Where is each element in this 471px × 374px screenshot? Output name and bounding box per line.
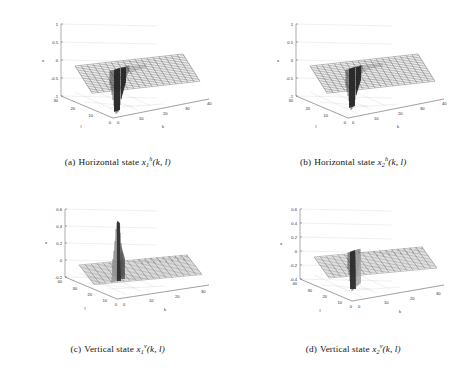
surface-plot-a: 1 0.5 0 -0.5 -1 x 30 20 10 0 l 0 10 2: [13, 6, 223, 156]
svg-text:40: 40: [57, 279, 62, 284]
caption-d-text: Vertical state: [320, 344, 370, 354]
svg-text:x: x: [42, 58, 45, 63]
caption-c-text: Vertical state: [84, 344, 134, 354]
surface-plot-d: 0.6 0.4 0.2 0 -0.2 -0.4 x 40 30 20 10 0 …: [248, 193, 458, 343]
svg-text:20: 20: [306, 106, 311, 111]
caption-b-label: (b): [300, 157, 311, 167]
svg-text:0.4: 0.4: [292, 221, 298, 226]
impulse-d-fill: [350, 250, 356, 289]
svg-text:1: 1: [55, 22, 58, 27]
caption-c: (c)Vertical state x1v(k, l): [70, 344, 165, 354]
surface-plot-c-svg: 0.6 0.4 0.2 0 -0.2 x 40 30 20 10 0 l 0 1…: [13, 193, 223, 343]
svg-text:10: 10: [374, 116, 379, 121]
panel-b: 1 0.5 0 -0.5 -1 x 30 20 10 0 l 0 10 20 3…: [236, 0, 471, 187]
svg-text:l: l: [320, 308, 321, 313]
svg-text:20: 20: [163, 111, 168, 116]
svg-text:0: 0: [291, 58, 294, 63]
caption-c-label: (c): [70, 344, 81, 354]
svg-text:0: 0: [123, 302, 126, 307]
svg-text:x: x: [280, 241, 283, 246]
svg-text:10: 10: [139, 116, 144, 121]
svg-text:x: x: [45, 240, 48, 245]
caption-d: (d)Vertical state x2v(k, l): [306, 344, 401, 354]
panel-d: 0.6 0.4 0.2 0 -0.2 -0.4 x 40 30 20 10 0 …: [236, 187, 471, 374]
svg-text:0: 0: [295, 249, 298, 254]
svg-text:0: 0: [358, 304, 361, 309]
caption-a: (a)Horizontal state x1h(k, l): [65, 157, 171, 167]
svg-text:30: 30: [308, 288, 313, 293]
mesh-surface-d: [314, 247, 437, 291]
caption-a-var: x1h(k, l): [142, 157, 171, 167]
svg-text:30: 30: [53, 98, 58, 103]
svg-text:0.5: 0.5: [288, 40, 294, 45]
svg-text:k: k: [399, 309, 402, 314]
svg-text:40: 40: [442, 101, 447, 106]
svg-text:30: 30: [72, 286, 77, 291]
svg-text:10: 10: [88, 113, 93, 118]
svg-text:20: 20: [87, 292, 92, 297]
svg-text:0.6: 0.6: [292, 207, 298, 212]
svg-text:10: 10: [149, 298, 154, 303]
svg-text:40: 40: [293, 281, 298, 286]
caption-d-label: (d): [306, 344, 317, 354]
svg-text:k: k: [164, 307, 167, 312]
axes-b: 1 0.5 0 -0.5 -1 x 30 20 10 0 l 0 10 20 3…: [277, 22, 447, 130]
axes-c: 0.6 0.4 0.2 0 -0.2 x 40 30 20 10 0 l 0 1…: [45, 207, 209, 313]
panel-c: 0.6 0.4 0.2 0 -0.2 x 40 30 20 10 0 l 0 1…: [0, 187, 236, 374]
svg-text:0: 0: [108, 120, 111, 125]
svg-text:0.2: 0.2: [292, 235, 298, 240]
svg-text:0: 0: [114, 302, 117, 307]
caption-b-var: x2h(k, l): [377, 157, 406, 167]
surface-plot-a-svg: 1 0.5 0 -0.5 -1 x 30 20 10 0 l 0 10 2: [13, 6, 223, 156]
caption-b: (b)Horizontal state x2h(k, l): [300, 157, 406, 167]
surface-plot-c: 0.6 0.4 0.2 0 -0.2 x 40 30 20 10 0 l 0 1…: [13, 193, 223, 343]
svg-text:0.4: 0.4: [56, 224, 62, 229]
caption-d-var: x2v(k, l): [372, 344, 401, 354]
svg-text:30: 30: [289, 98, 294, 103]
svg-text:30: 30: [201, 289, 206, 294]
svg-text:20: 20: [323, 294, 328, 299]
svg-text:20: 20: [175, 294, 180, 299]
svg-text:k: k: [162, 124, 165, 129]
svg-text:0: 0: [352, 120, 355, 125]
svg-text:10: 10: [324, 113, 329, 118]
panel-a: 1 0.5 0 -0.5 -1 x 30 20 10 0 l 0 10 2: [0, 0, 236, 187]
svg-text:-0.5: -0.5: [286, 76, 294, 81]
svg-text:k: k: [397, 124, 400, 129]
svg-text:0.2: 0.2: [56, 241, 62, 246]
svg-text:10: 10: [102, 298, 107, 303]
svg-text:l: l: [84, 306, 85, 311]
surface-plot-b: 1 0.5 0 -0.5 -1 x 30 20 10 0 l 0 10 20 3…: [248, 6, 458, 156]
surface-plot-d-svg: 0.6 0.4 0.2 0 -0.2 -0.4 x 40 30 20 10 0 …: [248, 193, 458, 343]
svg-text:0: 0: [344, 120, 347, 125]
svg-text:-0.5: -0.5: [51, 76, 59, 81]
svg-text:x: x: [277, 58, 280, 63]
axes-a: 1 0.5 0 -0.5 -1 x 30 20 10 0 l 0 10 2: [42, 22, 212, 130]
caption-c-var: x1v(k, l): [136, 344, 165, 354]
svg-text:l: l: [80, 124, 81, 129]
svg-text:1: 1: [291, 22, 294, 27]
svg-text:10: 10: [338, 300, 343, 305]
svg-text:0: 0: [59, 258, 62, 263]
svg-text:20: 20: [398, 111, 403, 116]
svg-text:0.6: 0.6: [56, 207, 62, 212]
impulse-b-fill: [349, 66, 361, 108]
spike-c-secondary: [121, 245, 125, 279]
svg-text:l: l: [316, 124, 317, 129]
svg-text:10: 10: [384, 300, 389, 305]
figure-grid: 1 0.5 0 -0.5 -1 x 30 20 10 0 l 0 10 2: [0, 0, 471, 374]
svg-text:40: 40: [207, 101, 212, 106]
svg-text:30: 30: [185, 106, 190, 111]
axes-d: 0.6 0.4 0.2 0 -0.2 -0.4 x 40 30 20 10 0 …: [280, 207, 444, 315]
caption-a-text: Horizontal state: [78, 157, 139, 167]
caption-a-label: (a): [65, 157, 76, 167]
svg-text:0: 0: [117, 120, 120, 125]
svg-text:0: 0: [55, 58, 58, 63]
svg-text:20: 20: [70, 106, 75, 111]
caption-b-text: Horizontal state: [314, 157, 375, 167]
svg-text:30: 30: [420, 106, 425, 111]
svg-text:30: 30: [436, 291, 441, 296]
svg-text:0.5: 0.5: [52, 40, 58, 45]
svg-text:0: 0: [350, 304, 353, 309]
surface-plot-b-svg: 1 0.5 0 -0.5 -1 x 30 20 10 0 l 0 10 20 3…: [248, 6, 458, 156]
